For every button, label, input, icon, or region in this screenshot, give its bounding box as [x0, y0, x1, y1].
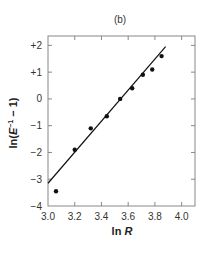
x-tick-label: 3.0 [41, 211, 55, 222]
x-tick-label: 3.6 [121, 211, 135, 222]
data-point [150, 67, 154, 71]
x-tick-label: 4.0 [175, 211, 189, 222]
data-point [105, 114, 109, 118]
data-point [54, 189, 58, 193]
y-tick-label: +2 [31, 40, 43, 51]
y-tick-label: −4 [31, 201, 43, 212]
x-tick-label: 3.4 [95, 211, 109, 222]
y-axis-ticks: +2+10−1−2−3−4 [31, 40, 195, 212]
y-axis-label-sup: −1 [7, 120, 14, 128]
y-axis-label-prefix: ln( [7, 135, 19, 149]
x-axis-label-var: R [124, 225, 132, 237]
y-tick-label: −3 [31, 174, 43, 185]
x-axis-label-prefix: ln [112, 225, 125, 237]
y-tick-label: −2 [31, 147, 43, 158]
data-points [54, 54, 164, 194]
x-axis-ticks: 3.03.23.43.63.84.0 [41, 36, 189, 222]
data-point [130, 86, 134, 90]
data-point [141, 73, 145, 77]
data-point [118, 97, 122, 101]
x-tick-label: 3.8 [148, 211, 162, 222]
x-tick-label: 3.2 [68, 211, 82, 222]
chart: (b) 3.03.23.43.63.84.0 +2+10−1−2−3−4 ln … [0, 0, 208, 253]
data-point [73, 148, 77, 152]
x-axis-label: ln R [112, 225, 133, 237]
data-point [159, 54, 163, 58]
chart-title: (b) [114, 14, 126, 25]
y-tick-label: −1 [31, 120, 43, 131]
y-axis-label-suffix: − 1) [7, 97, 19, 120]
y-axis-label: ln(E−1 − 1) [7, 97, 19, 148]
y-tick-label: 0 [36, 93, 42, 104]
y-tick-label: +1 [31, 67, 43, 78]
data-point [89, 126, 93, 130]
plot-frame [48, 36, 195, 206]
